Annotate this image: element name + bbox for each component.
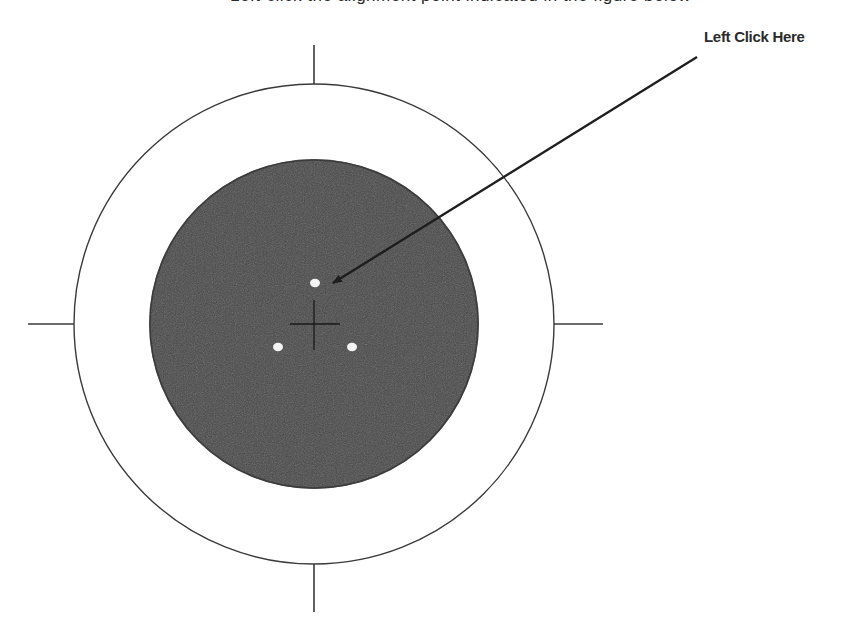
fiducial-dot-bottom-left [273,343,283,351]
alignment-target-diagram [0,0,847,637]
callout-label: Left Click Here [704,28,805,45]
fiducial-dot-bottom-right [347,343,357,351]
fiducial-dot-top[interactable] [310,279,320,287]
